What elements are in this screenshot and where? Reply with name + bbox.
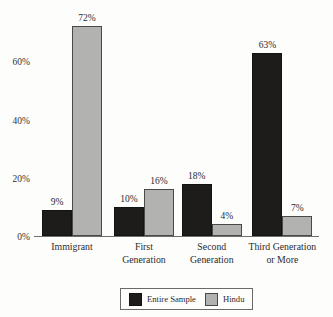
y-axis-tick-label: 60% (13, 57, 30, 67)
bar-pair: 10%16% (114, 10, 174, 236)
bar-value-label: 16% (150, 176, 167, 186)
x-axis-label: First Generation (110, 241, 178, 266)
x-axis-label: Immigrant (34, 241, 110, 266)
bar-entire-sample: 9% (42, 210, 72, 236)
bar-entire-sample: 63% (252, 53, 282, 236)
black-swatch (129, 293, 142, 306)
bar-group: 18%4% (178, 10, 246, 236)
bar-group: 9%72% (34, 10, 110, 236)
legend-label: Entire Sample (147, 294, 196, 304)
bar-hindu: 4% (212, 224, 242, 236)
y-axis-tick-label: 20% (13, 174, 30, 184)
x-axis-label: Second Generation (178, 241, 246, 266)
bar-group: 63%7% (246, 10, 319, 236)
bar-value-label: 7% (291, 203, 304, 213)
bar-entire-sample: 18% (182, 184, 212, 236)
x-axis-label: Third Generation or More (246, 241, 319, 266)
chart-legend: Entire SampleHindu (120, 288, 253, 310)
bar-pair: 63%7% (252, 10, 312, 236)
bar-value-label: 63% (259, 40, 276, 50)
bar-pair: 9%72% (42, 10, 102, 236)
bar-hindu: 16% (144, 189, 174, 236)
bar-group: 10%16% (110, 10, 178, 236)
gray-swatch (205, 293, 218, 306)
y-axis-tick-label: 0% (17, 232, 30, 242)
legend-entry[interactable]: Hindu (205, 293, 244, 306)
bar-entire-sample: 10% (114, 207, 144, 236)
bar-hindu: 72% (72, 26, 102, 236)
bar-groups: 9%72%10%16%18%4%63%7% (34, 10, 319, 236)
bar-value-label: 72% (78, 13, 95, 23)
bar-value-label: 9% (51, 197, 64, 207)
y-axis-tick-label: 40% (13, 116, 30, 126)
bar-pair: 18%4% (182, 10, 242, 236)
bar-hindu: 7% (282, 216, 312, 236)
chart-figure: 0%20%40%60% 9%72%10%16%18%4%63%7% Immigr… (0, 0, 333, 317)
plot-area: 9%72%10%16%18%4%63%7% (34, 10, 319, 237)
legend-entry[interactable]: Entire Sample (129, 293, 196, 306)
bar-value-label: 4% (220, 211, 233, 221)
bar-value-label: 10% (120, 194, 137, 204)
x-axis-line (34, 236, 319, 237)
legend-label: Hindu (223, 294, 244, 304)
bar-value-label: 18% (188, 171, 205, 181)
x-axis-category-labels: ImmigrantFirst GenerationSecond Generati… (34, 241, 319, 266)
y-axis-tick-labels: 0%20%40%60% (0, 10, 34, 237)
